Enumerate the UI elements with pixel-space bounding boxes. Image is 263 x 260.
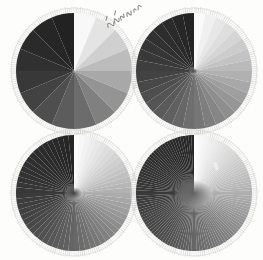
center-blob (190, 68, 198, 74)
disc-top-right (130, 7, 259, 136)
disc-bottom-right (130, 129, 259, 258)
disc-bottom-left (10, 129, 139, 258)
center-blob (66, 187, 82, 199)
center-blob (176, 180, 211, 206)
figure-canvas (0, 0, 263, 260)
sector-group (16, 13, 132, 129)
disc-top-left (10, 7, 139, 136)
discs-svg (0, 0, 263, 260)
